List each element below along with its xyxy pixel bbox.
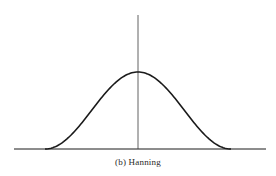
figure-caption: (b) Hanning xyxy=(0,157,276,167)
hanning-window-diagram xyxy=(0,0,276,176)
